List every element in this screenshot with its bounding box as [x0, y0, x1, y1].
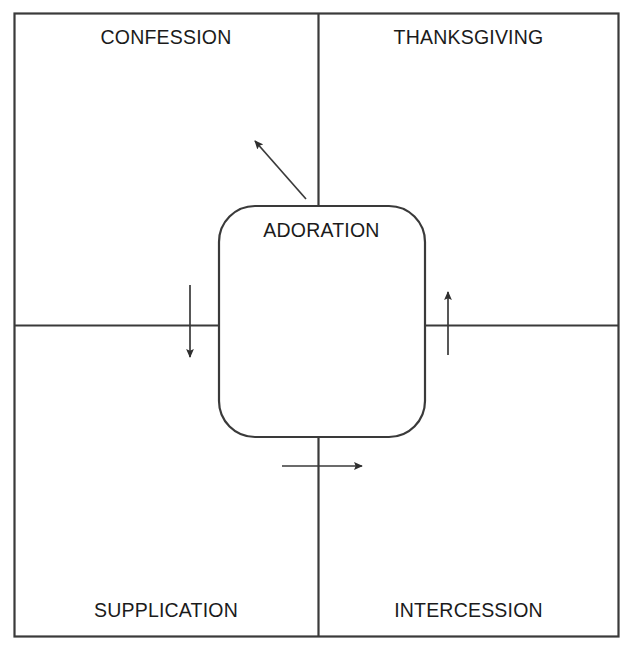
diagram-canvas: CONFESSION THANKSGIVING SUPPLICATION INT…: [0, 0, 632, 648]
center-label-adoration: ADORATION: [218, 221, 425, 241]
quadrant-label-thanksgiving: THANKSGIVING: [318, 28, 619, 48]
quadrant-label-supplication: SUPPLICATION: [14, 601, 318, 621]
quadrant-diagram-graphic: [0, 0, 632, 648]
quadrant-label-confession: CONFESSION: [14, 28, 318, 48]
quadrant-label-intercession: INTERCESSION: [318, 601, 619, 621]
